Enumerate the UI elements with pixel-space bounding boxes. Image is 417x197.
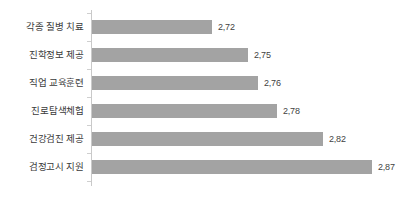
bar-value-label: 2,78 (283, 106, 300, 116)
bar-value-label: 2,82 (329, 134, 346, 144)
category-label: 각종 질병 치료 (4, 21, 84, 33)
bar-검정고시-지원 (92, 160, 372, 174)
bar-rows: 각종 질병 치료 2,72 진학정보 제공 2,75 직업 교육훈련 2,76 … (0, 0, 417, 197)
bar-各종-질병-치료 (92, 20, 212, 34)
category-label: 건강검진 제공 (4, 133, 84, 145)
bar-진로탐색체험 (92, 104, 277, 118)
category-label: 진로탐색체험 (4, 105, 84, 117)
bar-직업-교육훈련 (92, 76, 258, 90)
bar-value-label: 2,87 (378, 162, 395, 172)
bar-진학정보-제공 (92, 48, 248, 62)
bar-value-label: 2,76 (264, 78, 281, 88)
bar-row: 검정고시 지원 2,87 (0, 153, 417, 181)
category-label: 검정고시 지원 (4, 161, 84, 173)
bar-row: 직업 교육훈련 2,76 (0, 69, 417, 97)
bar-row: 각종 질병 치료 2,72 (0, 13, 417, 41)
bar-row: 건강검진 제공 2,82 (0, 125, 417, 153)
bar-row: 진로탐색체험 2,78 (0, 97, 417, 125)
category-label: 진학정보 제공 (4, 49, 84, 61)
category-label: 직업 교육훈련 (4, 77, 84, 89)
horizontal-bar-chart: 각종 질병 치료 2,72 진학정보 제공 2,75 직업 교육훈련 2,76 … (0, 0, 417, 197)
bar-value-label: 2,72 (218, 22, 235, 32)
bar-row: 진학정보 제공 2,75 (0, 41, 417, 69)
bar-건강검진-제공 (92, 132, 323, 146)
bar-value-label: 2,75 (254, 50, 271, 60)
